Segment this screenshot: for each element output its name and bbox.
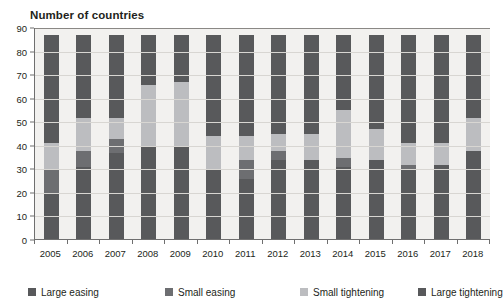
legend-item[interactable]: Small tightening <box>300 287 384 298</box>
x-axis-tick-label: 2009 <box>170 248 191 259</box>
x-axis-tick-label: 2006 <box>72 248 93 259</box>
bar-2015[interactable] <box>369 35 384 240</box>
bar-segment <box>304 160 319 240</box>
x-axis-tick-mark <box>489 240 490 244</box>
x-axis-tick-label: 2016 <box>397 248 418 259</box>
legend-label: Large easing <box>41 287 99 298</box>
bar-segment <box>466 35 481 117</box>
bar-segment <box>76 35 91 117</box>
x-axis-tick-label: 2010 <box>202 248 223 259</box>
x-axis-tick-label: 2005 <box>40 248 61 259</box>
x-axis-tick-mark <box>294 240 295 244</box>
x-axis-tick-label: 2007 <box>105 248 126 259</box>
bar-segment <box>206 169 221 240</box>
bar-segment <box>44 169 59 193</box>
chart-title: Number of countries <box>30 9 144 21</box>
x-axis-tick-mark <box>327 240 328 244</box>
bar-segment <box>44 143 59 169</box>
bar-segment <box>109 118 124 139</box>
chart-legend: Large easingSmall easingSmall tightening… <box>28 282 483 302</box>
x-axis-tick-label: 2018 <box>462 248 483 259</box>
y-axis-tick-label: 30 <box>16 164 27 175</box>
bar-2007[interactable] <box>109 35 124 240</box>
bar-2013[interactable] <box>304 35 319 240</box>
y-axis: 0102030405060708090 <box>0 0 34 240</box>
y-axis-tick-label: 50 <box>16 117 27 128</box>
bar-segment <box>206 136 221 169</box>
bar-2010[interactable] <box>206 35 221 240</box>
y-axis-tick-label: 80 <box>16 46 27 57</box>
x-axis-tick-mark <box>132 240 133 244</box>
legend-swatch-icon <box>418 288 426 296</box>
x-axis-tick-label: 2015 <box>365 248 386 259</box>
bar-segment <box>239 136 254 160</box>
x-axis-tick-mark <box>164 240 165 244</box>
bar-2009[interactable] <box>174 35 189 240</box>
bar-2005[interactable] <box>44 35 59 240</box>
legend-label: Large tightening <box>431 287 503 298</box>
x-axis-tick-label: 2008 <box>137 248 158 259</box>
bar-segment <box>239 179 254 240</box>
bar-segment <box>271 35 286 134</box>
legend-item[interactable]: Small easing <box>165 287 235 298</box>
x-axis-tick-label: 2013 <box>300 248 321 259</box>
legend-swatch-icon <box>28 288 36 296</box>
y-axis-tick-label: 20 <box>16 187 27 198</box>
bar-segment <box>401 169 416 240</box>
bar-segment <box>336 110 351 157</box>
bar-2018[interactable] <box>466 35 481 240</box>
bar-segment <box>206 35 221 136</box>
bar-segment <box>271 151 286 160</box>
bars-layer <box>35 28 490 240</box>
x-axis-tick-label: 2017 <box>430 248 451 259</box>
x-axis-tick-mark <box>34 240 35 244</box>
bar-segment <box>369 35 384 129</box>
bar-2006[interactable] <box>76 35 91 240</box>
y-axis-tick-label: 70 <box>16 70 27 81</box>
y-axis-tick-label: 60 <box>16 93 27 104</box>
bar-2011[interactable] <box>239 35 254 240</box>
bar-segment <box>76 167 91 240</box>
x-axis-tick-label: 2011 <box>235 248 255 259</box>
gridline <box>35 52 490 53</box>
bar-2016[interactable] <box>401 35 416 240</box>
legend-label: Small tightening <box>313 287 384 298</box>
bar-segment <box>336 158 351 167</box>
bar-2012[interactable] <box>271 35 286 240</box>
bar-segment <box>141 85 156 146</box>
x-axis-tick-mark <box>197 240 198 244</box>
x-axis-tick-mark <box>229 240 230 244</box>
bar-segment <box>109 35 124 117</box>
gridline <box>35 146 490 147</box>
bar-segment <box>271 134 286 150</box>
gridline <box>35 169 490 170</box>
legend-label: Small easing <box>178 287 235 298</box>
legend-swatch-icon <box>300 288 308 296</box>
bar-segment <box>304 134 319 160</box>
x-axis-tick-mark <box>424 240 425 244</box>
legend-item[interactable]: Large easing <box>28 287 99 298</box>
gridline <box>35 75 490 76</box>
bar-segment <box>369 160 384 240</box>
bar-segment <box>141 35 156 84</box>
gridline <box>35 216 490 217</box>
bar-2014[interactable] <box>336 35 351 240</box>
gridline <box>35 193 490 194</box>
bar-segment <box>239 35 254 136</box>
bar-segment <box>466 151 481 241</box>
x-axis-tick-mark <box>392 240 393 244</box>
x-axis-tick-label: 2012 <box>267 248 288 259</box>
legend-item[interactable]: Large tightening <box>418 287 503 298</box>
y-axis-tick-label: 40 <box>16 140 27 151</box>
x-axis-tick-mark <box>457 240 458 244</box>
bar-segment <box>174 82 189 146</box>
bar-segment <box>336 167 351 240</box>
bar-2008[interactable] <box>141 35 156 240</box>
x-axis: 2005200620072008200920102011201220132014… <box>0 240 496 266</box>
bar-segment <box>109 153 124 240</box>
bar-2017[interactable] <box>434 35 449 240</box>
bar-segment <box>369 129 384 160</box>
plot-area <box>34 28 490 240</box>
bar-segment <box>304 35 319 134</box>
gridline <box>35 122 490 123</box>
